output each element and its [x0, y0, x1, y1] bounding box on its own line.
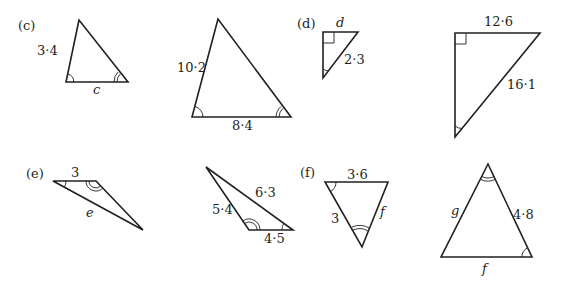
side-label-e-small-top: 3: [71, 165, 79, 180]
side-label-f-large-left: g: [451, 203, 459, 218]
similar-triangles-diagram: (c) 3·4 c 10·2 8·4 (d) d 2·3 12·6 16·1 (…: [0, 0, 570, 283]
triangle-f-large: g 4·8 f: [441, 164, 534, 276]
part-label-e: (e): [26, 166, 44, 181]
side-label-f-large-right: 4·8: [513, 207, 534, 222]
triangle-e-small: 3 e: [53, 165, 143, 230]
triangle-c-small: 3·4 c: [37, 20, 128, 97]
side-label-d-large-hypotenuse: 16·1: [507, 77, 536, 92]
triangle-e-large: 5·4 6·3 4·5: [206, 167, 293, 246]
side-label-e-small-long: e: [86, 205, 94, 220]
side-label-d-small-hypotenuse: 2·3: [344, 52, 365, 67]
side-label-d-large-top: 12·6: [484, 14, 513, 29]
part-label-c: (c): [18, 18, 35, 33]
part-label-f: (f): [300, 165, 315, 180]
side-label-c-small-left: 3·4: [37, 43, 58, 58]
side-label-c-large-left: 10·2: [177, 60, 206, 75]
triangle-c-large: 10·2 8·4: [177, 19, 291, 133]
side-label-e-large-left: 5·4: [212, 202, 233, 217]
side-label-e-large-long: 6·3: [255, 185, 276, 200]
triangle-d-small: d 2·3: [323, 15, 365, 78]
side-label-f-small-left: 3: [331, 211, 339, 226]
part-label-d: (d): [297, 16, 315, 31]
side-label-c-large-bottom: 8·4: [232, 118, 253, 133]
side-label-c-small-bottom: c: [93, 82, 101, 97]
triangle-d-large: 12·6 16·1: [455, 14, 540, 137]
side-label-e-large-bottom: 4·5: [264, 231, 285, 246]
triangle-f-small: 3·6 3 f: [325, 167, 388, 247]
side-label-f-small-top: 3·6: [347, 167, 368, 182]
side-label-f-large-bottom: f: [481, 261, 489, 276]
side-label-f-small-right: f: [379, 204, 387, 219]
side-label-d-small-top: d: [336, 15, 344, 30]
